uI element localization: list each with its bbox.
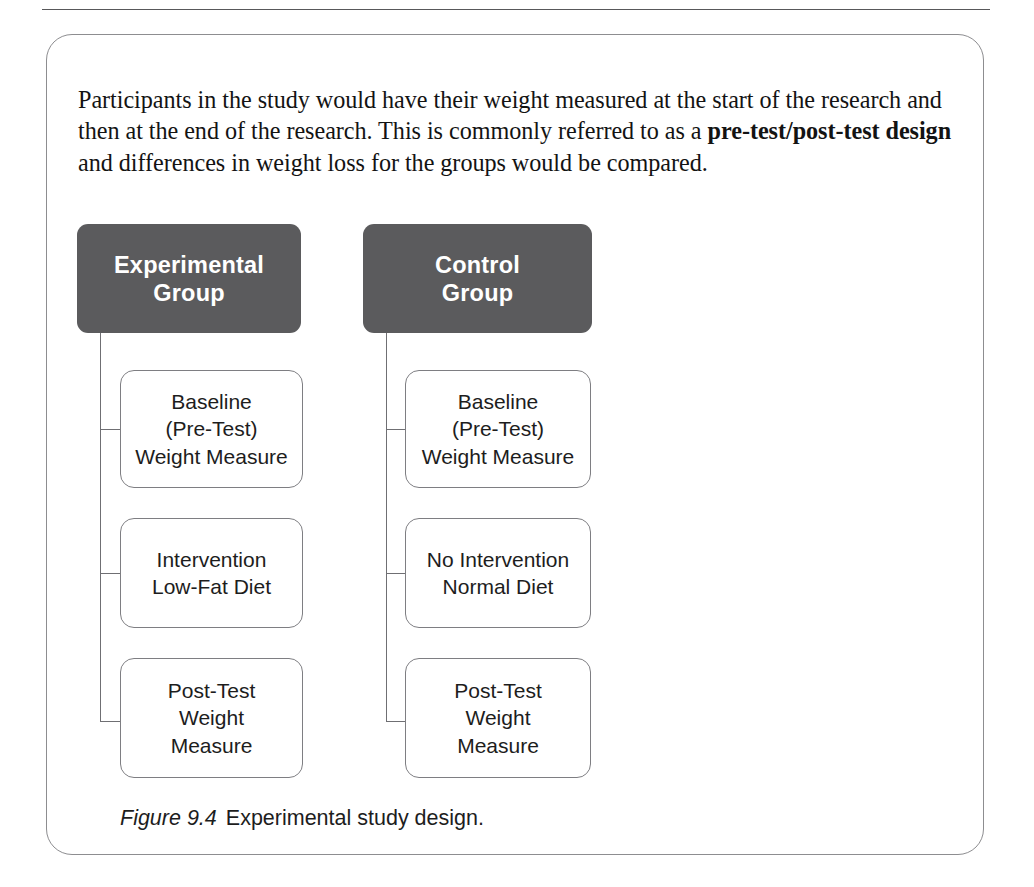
figure-caption: Figure 9.4Experimental study design. xyxy=(120,804,484,832)
group-header-experimental: ExperimentalGroup xyxy=(77,224,301,333)
step-line2: Weight xyxy=(179,706,244,729)
connector-stub-control-2 xyxy=(386,573,406,574)
intro-paragraph: Participants in the study would have the… xyxy=(78,84,954,178)
step-box-control-baseline-label: Baseline(Pre-Test)Weight Measure xyxy=(422,388,575,471)
connector-stub-control-1 xyxy=(386,429,406,430)
step-line1: No Intervention xyxy=(427,548,569,571)
step-line1: Post-Test xyxy=(454,679,542,702)
step-box-experimental-post-test: Post-TestWeightMeasure xyxy=(120,658,303,778)
step-box-control-no-intervention-label: No InterventionNormal Diet xyxy=(427,546,569,601)
intro-paragraph-bold-term: pre-test/post-test design xyxy=(708,117,952,144)
connector-trunk-control xyxy=(386,333,387,722)
step-box-experimental-baseline-label: Baseline(Pre-Test)Weight Measure xyxy=(135,388,288,471)
step-line2: (Pre-Test) xyxy=(165,417,257,440)
step-box-control-post-test: Post-TestWeightMeasure xyxy=(405,658,591,778)
step-line3: Weight Measure xyxy=(422,445,575,468)
step-line2: Weight xyxy=(466,706,531,729)
connector-trunk-experimental xyxy=(100,333,101,722)
group-header-control-label: ControlGroup xyxy=(435,251,520,307)
group-header-control-line1: Control xyxy=(435,252,520,278)
step-box-control-baseline: Baseline(Pre-Test)Weight Measure xyxy=(405,370,591,488)
connector-stub-experimental-1 xyxy=(100,429,121,430)
step-box-experimental-intervention: InterventionLow-Fat Diet xyxy=(120,518,303,628)
connector-stub-experimental-3 xyxy=(100,721,121,722)
intro-paragraph-part2: and differences in weight loss for the g… xyxy=(78,149,708,176)
group-header-control-line2: Group xyxy=(442,280,514,306)
step-line2: Low-Fat Diet xyxy=(152,575,271,598)
connector-stub-control-3 xyxy=(386,721,406,722)
group-header-control: ControlGroup xyxy=(363,224,592,333)
step-box-experimental-post-test-label: Post-TestWeightMeasure xyxy=(168,677,256,760)
step-line1: Baseline xyxy=(458,390,539,413)
group-header-experimental-label: ExperimentalGroup xyxy=(114,251,264,307)
step-box-experimental-baseline: Baseline(Pre-Test)Weight Measure xyxy=(120,370,303,488)
step-box-control-post-test-label: Post-TestWeightMeasure xyxy=(454,677,542,760)
step-line2: Normal Diet xyxy=(443,575,554,598)
step-line1: Intervention xyxy=(157,548,267,571)
step-box-control-no-intervention: No InterventionNormal Diet xyxy=(405,518,591,628)
step-line3: Measure xyxy=(457,734,539,757)
connector-stub-experimental-2 xyxy=(100,573,121,574)
group-header-experimental-line1: Experimental xyxy=(114,252,264,278)
step-line3: Measure xyxy=(171,734,253,757)
step-line3: Weight Measure xyxy=(135,445,288,468)
figure-caption-number: Figure 9.4 xyxy=(120,806,217,830)
step-box-experimental-intervention-label: InterventionLow-Fat Diet xyxy=(152,546,271,601)
group-header-experimental-line2: Group xyxy=(153,280,225,306)
figure-caption-text: Experimental study design. xyxy=(226,806,484,830)
step-line1: Post-Test xyxy=(168,679,256,702)
step-line1: Baseline xyxy=(171,390,252,413)
top-divider-rule xyxy=(42,9,990,10)
step-line2: (Pre-Test) xyxy=(452,417,544,440)
